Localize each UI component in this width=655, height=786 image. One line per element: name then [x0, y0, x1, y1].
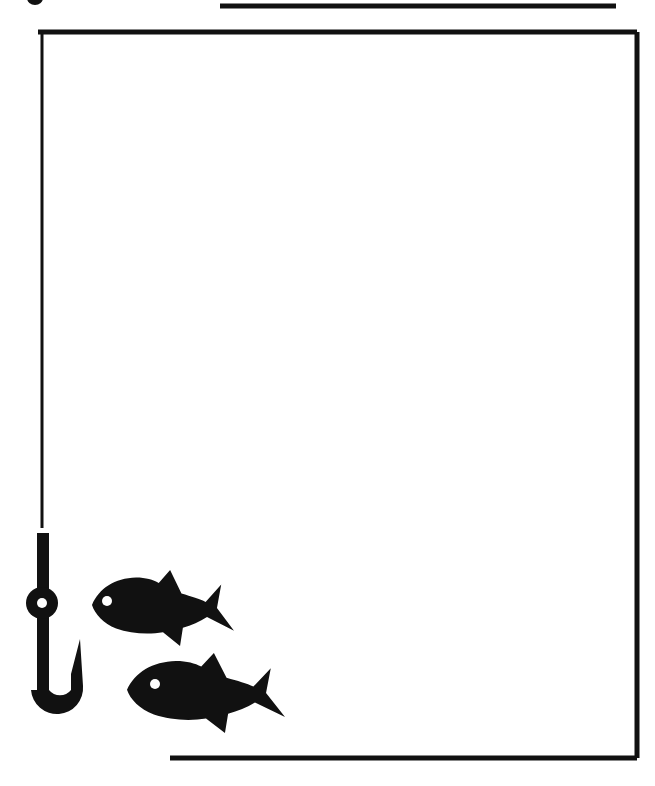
fishing-illustration [0, 0, 655, 786]
illustration-canvas: A fishing hook hanging from a line that … [0, 0, 655, 786]
fish-lower-eye [150, 679, 160, 689]
fish-upper-eye [102, 596, 112, 606]
hook-eye-hole [37, 598, 47, 608]
page-background [0, 0, 655, 786]
